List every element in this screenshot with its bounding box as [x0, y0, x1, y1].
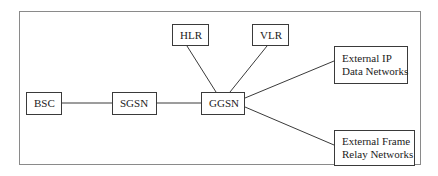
node-vlr: VLR	[252, 24, 289, 46]
node-label-line-2: Data Networks	[342, 65, 408, 78]
node-external-ip-data-networks: External IP Data Networks	[334, 46, 408, 84]
node-label: HLR	[180, 29, 202, 42]
node-hlr: HLR	[172, 24, 209, 46]
node-label-line-1: External Frame	[342, 135, 410, 148]
node-label-line-1: External IP	[342, 52, 392, 65]
node-label: VLR	[260, 29, 282, 42]
node-sgsn: SGSN	[112, 92, 157, 115]
edge-ggsn-ext-ip	[245, 61, 334, 98]
gprs-network-diagram: BSC SGSN GGSN HLR VLR External IP Data N…	[0, 0, 438, 176]
node-external-frame-relay-networks: External Frame Relay Networks	[334, 130, 415, 166]
node-label-line-2: Relay Networks	[342, 148, 413, 161]
node-label: SGSN	[120, 97, 148, 110]
node-bsc: BSC	[26, 92, 62, 115]
node-label: BSC	[34, 97, 55, 110]
node-ggsn: GGSN	[201, 92, 245, 115]
edge-vlr-ggsn	[230, 46, 267, 92]
edge-ggsn-ext-fr	[245, 107, 334, 145]
edge-hlr-ggsn	[187, 46, 216, 92]
node-label: GGSN	[209, 97, 239, 110]
